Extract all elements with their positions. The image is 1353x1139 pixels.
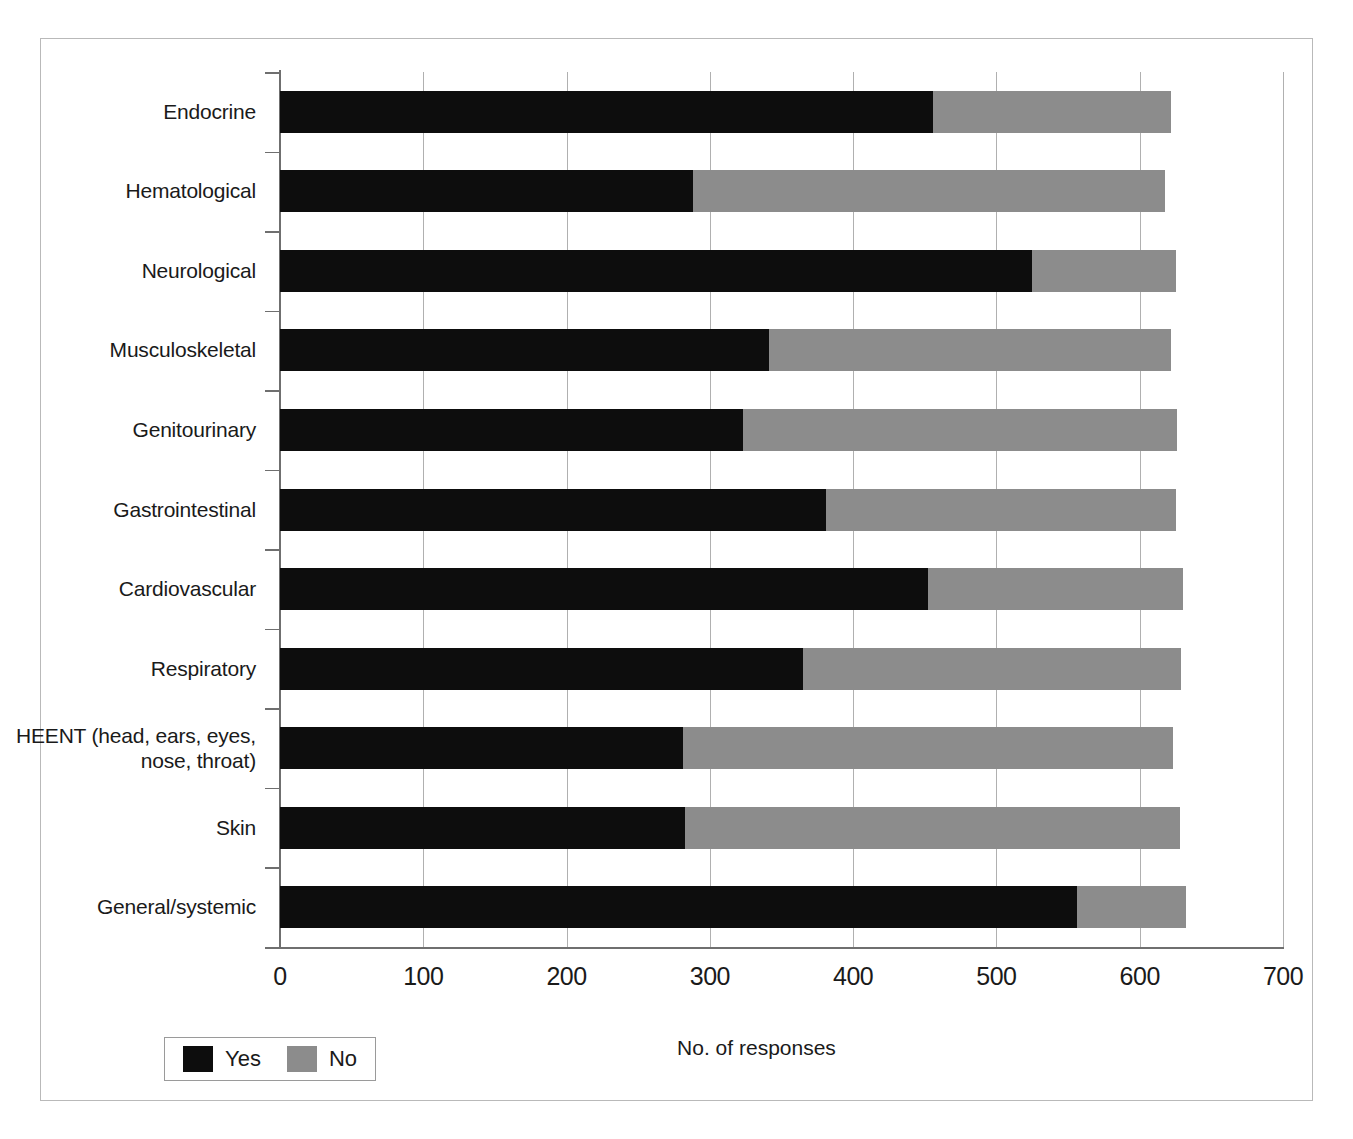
x-axis-line <box>279 947 1284 949</box>
bar-segment-no <box>769 329 1172 371</box>
y-axis-tick <box>265 311 281 313</box>
y-axis-category-label: Hematological <box>16 178 256 204</box>
legend-swatch-yes <box>183 1046 213 1072</box>
x-axis-tick-label: 400 <box>808 962 898 991</box>
bar-segment-yes <box>280 886 1077 928</box>
y-axis-tick <box>265 72 281 74</box>
bar-segment-no <box>1077 886 1186 928</box>
y-axis-tick <box>265 867 281 869</box>
y-axis-tick <box>265 788 281 790</box>
y-axis-tick <box>265 152 281 154</box>
chart-legend: YesNo <box>164 1037 376 1081</box>
y-axis-category-label: Respiratory <box>16 656 256 682</box>
x-axis-tick-label: 700 <box>1238 962 1328 991</box>
legend-label: Yes <box>225 1046 261 1072</box>
bar-segment-yes <box>280 250 1032 292</box>
bar-segment-yes <box>280 568 928 610</box>
bar-segment-yes <box>280 807 685 849</box>
legend-item: No <box>287 1046 357 1072</box>
bar-segment-no <box>683 727 1173 769</box>
chart-page: EndocrineHematologicalNeurologicalMuscul… <box>0 0 1353 1139</box>
y-axis-category-label: Genitourinary <box>16 417 256 443</box>
stacked-bar <box>280 727 1173 769</box>
legend-label: No <box>329 1046 357 1072</box>
x-axis-tick-label: 200 <box>522 962 612 991</box>
stacked-bar <box>280 329 1171 371</box>
bar-segment-yes <box>280 409 743 451</box>
y-axis-tick <box>265 947 281 949</box>
x-axis-title-text: No. of responses <box>677 1036 836 1060</box>
stacked-bar <box>280 489 1176 531</box>
legend-swatch-no <box>287 1046 317 1072</box>
stacked-bar <box>280 568 1183 610</box>
legend-item: Yes <box>183 1046 261 1072</box>
y-axis-category-label: HEENT (head, ears, eyes, nose, throat) <box>16 723 256 774</box>
x-axis-tick-label: 600 <box>1095 962 1185 991</box>
x-axis-tick-label: 500 <box>951 962 1041 991</box>
bar-segment-no <box>693 170 1166 212</box>
y-axis-tick <box>265 629 281 631</box>
y-axis-tick <box>265 231 281 233</box>
y-axis-tick <box>265 708 281 710</box>
bar-segment-yes <box>280 489 826 531</box>
bar-segment-no <box>933 91 1171 133</box>
y-axis-category-label: Cardiovascular <box>16 576 256 602</box>
y-axis-category-label: Skin <box>16 815 256 841</box>
stacked-bar <box>280 409 1177 451</box>
x-axis-tick-label: 100 <box>378 962 468 991</box>
bar-segment-no <box>803 648 1181 690</box>
bar-segment-yes <box>280 91 933 133</box>
bar-segment-yes <box>280 648 803 690</box>
x-axis-tick-label: 0 <box>235 962 325 991</box>
gridline <box>1283 72 1284 947</box>
y-axis-category-label: Endocrine <box>16 99 256 125</box>
y-axis-category-label: Gastrointestinal <box>16 497 256 523</box>
y-axis-category-label: Neurological <box>16 258 256 284</box>
y-axis-tick <box>265 470 281 472</box>
bar-segment-no <box>685 807 1179 849</box>
bar-segment-yes <box>280 329 769 371</box>
bar-segment-yes <box>280 170 693 212</box>
bar-segment-no <box>743 409 1177 451</box>
bar-segment-no <box>928 568 1183 610</box>
y-axis-category-label: Musculoskeletal <box>16 337 256 363</box>
stacked-bar <box>280 170 1165 212</box>
stacked-bar <box>280 250 1176 292</box>
x-axis-tick-label: 300 <box>665 962 755 991</box>
stacked-bar <box>280 807 1180 849</box>
stacked-bar <box>280 886 1186 928</box>
y-axis-tick <box>265 549 281 551</box>
stacked-bar <box>280 91 1171 133</box>
stacked-bar <box>280 648 1181 690</box>
y-axis-category-label: General/systemic <box>16 894 256 920</box>
bar-segment-yes <box>280 727 683 769</box>
bar-segment-no <box>826 489 1176 531</box>
plot-area <box>280 72 1283 947</box>
bar-segment-no <box>1032 250 1175 292</box>
y-axis-tick <box>265 390 281 392</box>
